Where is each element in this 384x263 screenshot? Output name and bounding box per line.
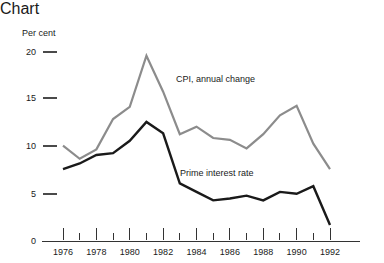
chart-container: Per cent 20 15 10 5 0 197619781980198219…	[0, 18, 384, 263]
y-tick-label-0: 0	[31, 236, 36, 246]
y-tick-label-5: 5	[31, 189, 36, 199]
x-tick-label-1978: 1978	[86, 247, 106, 257]
y-axis-title: Per cent	[22, 28, 56, 38]
x-tick-label-1986: 1986	[220, 247, 240, 257]
x-axis-ticks: 197619781980198219841986198819901992	[53, 228, 340, 257]
x-tick-label-1982: 1982	[153, 247, 173, 257]
x-tick-label-1976: 1976	[53, 247, 73, 257]
x-tick-label-1980: 1980	[120, 247, 140, 257]
y-tick-label-20: 20	[26, 47, 36, 57]
y-axis-ticks: 20 15 10 5 0	[26, 47, 57, 246]
annotation-cpi: CPI, annual change	[176, 74, 255, 84]
y-tick-label-15: 15	[26, 93, 36, 103]
y-tick-label-10: 10	[26, 141, 36, 151]
annotation-prime: Prime interest rate	[180, 168, 254, 178]
series-line-cpi	[63, 56, 330, 169]
line-chart: Per cent 20 15 10 5 0 197619781980198219…	[0, 18, 384, 263]
x-tick-label-1990: 1990	[287, 247, 307, 257]
x-tick-label-1984: 1984	[186, 247, 206, 257]
x-tick-label-1988: 1988	[253, 247, 273, 257]
x-tick-label-1992: 1992	[320, 247, 340, 257]
